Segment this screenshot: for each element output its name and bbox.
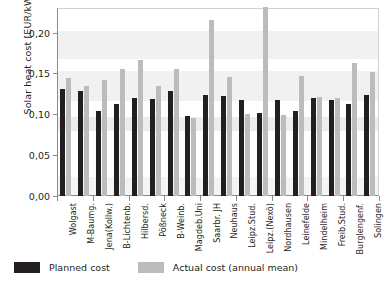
x-axis-ticks (57, 196, 379, 202)
x-tick-label: Solingen (374, 203, 383, 238)
bar-group (221, 8, 234, 196)
bar-actual (352, 63, 357, 196)
bar-planned (346, 104, 351, 196)
bar-group (203, 8, 216, 196)
bar-actual (156, 86, 161, 196)
bar-actual (191, 118, 196, 196)
legend-label-actual: Actual cost (annual mean) (173, 262, 298, 273)
bar-group (239, 8, 252, 196)
bar-group (78, 8, 91, 196)
bar-planned (257, 113, 262, 196)
bar-planned (364, 95, 369, 196)
bar-actual (299, 76, 304, 196)
legend-label-planned: Planned cost (49, 262, 110, 273)
y-tick-mark (53, 33, 58, 34)
y-tick-label: 0,15 (0, 68, 57, 79)
bar-planned (293, 111, 298, 196)
bar-planned (185, 116, 190, 196)
x-tick-label: B-Lichtenb. (123, 203, 132, 249)
x-tick-label: Nordhausen (284, 203, 293, 252)
x-tick-label: Jena(Kollw.) (105, 203, 114, 250)
bar-planned (239, 100, 244, 196)
x-tick-label: Leinefelde (302, 203, 311, 245)
bar-group (132, 8, 145, 196)
x-tick-label: Hilbersd. (141, 203, 150, 239)
bar-group (293, 8, 306, 196)
x-tick-mark (307, 196, 308, 201)
y-tick-label: 0,05 (0, 150, 57, 161)
bar-group (96, 8, 109, 196)
legend-swatch-actual-icon (138, 262, 164, 273)
bar-actual (263, 7, 268, 196)
y-tick-label: 0,20 (0, 27, 57, 38)
x-tick-label: Freib.Stud. (338, 203, 347, 246)
bar-planned (132, 98, 137, 196)
bar-group (275, 8, 288, 196)
bar-actual (317, 97, 322, 196)
x-tick-label: Leipz.Stud. (248, 203, 257, 248)
x-tick-mark (343, 196, 344, 201)
bar-actual (227, 77, 232, 196)
bar-planned (60, 89, 65, 196)
bar-actual (370, 72, 375, 196)
bar-planned (114, 104, 119, 196)
bar-planned (96, 111, 101, 196)
legend-item-planned: Planned cost (14, 262, 138, 273)
x-tick-label: Saarbr. JH (213, 203, 222, 243)
x-axis-labels: WolgastM-Baumg.Jena(Kollw.)B-Lichtenb.Hi… (57, 203, 379, 259)
bar-actual (174, 69, 179, 197)
x-tick-mark (236, 196, 237, 201)
x-tick-label: M-Baumg. (87, 203, 96, 244)
bar-group (185, 8, 198, 196)
y-tick-label: 0,00 (0, 191, 57, 202)
bar-actual (66, 78, 71, 196)
bar-planned (275, 100, 280, 196)
x-tick-label: Neuhaus (230, 203, 239, 239)
bar-actual (281, 115, 286, 196)
y-tick-mark (53, 155, 58, 156)
bar-planned (329, 100, 334, 196)
legend-swatch-planned-icon (14, 262, 40, 273)
bar-group (364, 8, 377, 196)
bar-group (311, 8, 324, 196)
bar-planned (150, 99, 155, 196)
y-tick-mark (53, 73, 58, 74)
x-tick-mark (129, 196, 130, 201)
bar-actual (335, 98, 340, 196)
x-tick-label: Magdeb.Uni (195, 203, 204, 251)
x-tick-mark (200, 196, 201, 201)
bar-actual (120, 69, 125, 197)
x-tick-label: B-Weinb. (177, 203, 186, 239)
x-tick-mark (272, 196, 273, 201)
bar-group (257, 8, 270, 196)
x-tick-label: Pößneck (159, 203, 168, 237)
bar-series-container (57, 8, 379, 196)
y-tick-mark (53, 114, 58, 115)
bar-group (60, 8, 73, 196)
bar-group (168, 8, 181, 196)
bar-group (114, 8, 127, 196)
x-tick-mark (379, 196, 380, 201)
bar-planned (311, 98, 316, 196)
bar-actual (138, 60, 143, 197)
bar-planned (221, 96, 226, 196)
x-tick-label: Wolgast (69, 203, 78, 235)
bar-actual (209, 20, 214, 196)
x-tick-label: Burglengenf. (356, 203, 365, 254)
bar-group (150, 8, 163, 196)
bar-actual (102, 80, 107, 196)
x-tick-label: Leipz.(Nexö) (266, 203, 275, 253)
bar-planned (203, 95, 208, 196)
legend-item-actual: Actual cost (annual mean) (138, 262, 326, 273)
x-tick-label: Mindelheim (320, 203, 329, 250)
bar-actual (245, 114, 250, 196)
bar-group (346, 8, 359, 196)
y-tick-label: 0,10 (0, 109, 57, 120)
x-tick-mark (93, 196, 94, 201)
bar-actual (84, 86, 89, 196)
y-tick-mark (53, 196, 58, 197)
x-tick-mark (164, 196, 165, 201)
bar-planned (168, 91, 173, 196)
bar-group (329, 8, 342, 196)
chart-legend: Planned cost Actual cost (annual mean) (14, 262, 326, 273)
